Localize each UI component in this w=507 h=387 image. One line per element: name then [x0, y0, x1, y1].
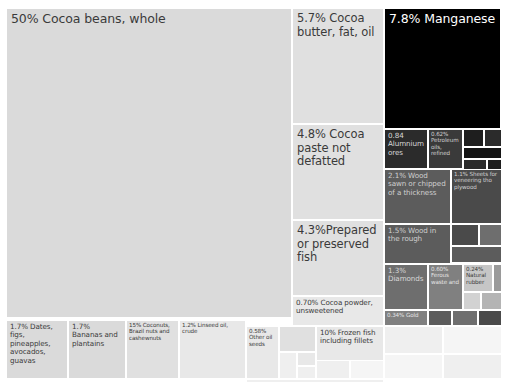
- treemap-cell-wood-in-the-rough[interactable]: 1.5% Wood in the rough: [384, 224, 451, 264]
- treemap-cell-label: 5.7% Cocoa butter, fat, oil: [293, 9, 383, 39]
- treemap-cell-right-mid-cell-b[interactable]: [479, 224, 502, 246]
- treemap-cell-label: 10% Frozen fish including fillets: [317, 327, 383, 346]
- treemap-cell-label: 15% Coconuts, Brazil nuts and cashewnuts: [127, 321, 178, 341]
- treemap-cell-bottom-right-cell-c[interactable]: [478, 310, 502, 326]
- treemap-cell-sheets-for-veneering[interactable]: 1.1% Sheets for veneering tho plywood: [451, 169, 502, 224]
- treemap-cell-cocoa-paste-not-defatted[interactable]: 4.8% Cocoa paste not defatted: [292, 124, 384, 220]
- treemap-cell-cocoa-butter-fat-oil[interactable]: 5.7% Cocoa butter, fat, oil: [292, 8, 384, 124]
- treemap-cell-natural-rubber[interactable]: 0.24% Natural rubber: [463, 264, 493, 292]
- treemap-cell-label: 0.58% Other oil seeds: [247, 327, 278, 347]
- treemap-cell-label: 1.1% Sheets for veneering tho plywood: [452, 170, 501, 190]
- treemap-cell-cocoa-powder-unsweetened[interactable]: 0.70% Cocoa powder, unsweetened: [292, 296, 384, 326]
- treemap-cell-small-dark-cell-a[interactable]: [463, 129, 484, 147]
- treemap-cell-right-low-cell-b[interactable]: [463, 292, 481, 310]
- treemap-cell-bottom-right-cell-a[interactable]: [428, 310, 452, 326]
- treemap-cell-linseed-oil-crude[interactable]: 1.2% Linseed oil, crude: [179, 320, 246, 379]
- treemap-cell-label: 1.2% Linseed oil, crude: [180, 321, 245, 335]
- treemap-cell-label: 1.7% Bananas and plantains: [69, 321, 125, 348]
- treemap-cell-aluminium-ores[interactable]: 0.84 Alumnium ores: [384, 129, 428, 169]
- treemap-cell-label: 1.5% Wood in the rough: [385, 225, 450, 244]
- treemap-cell-dates-figs-pineapples[interactable]: 1.7% Dates, figs, pineapples, avocados, …: [6, 320, 68, 379]
- treemap-cell-label: 0.34% Gold: [385, 311, 427, 318]
- treemap-cell-label: 50% Cocoa beans, whole: [7, 9, 291, 27]
- treemap-cell-bottom-filler-h[interactable]: [384, 326, 443, 354]
- treemap-cell-wood-sawn-or-chipped[interactable]: 2.1% Wood sawn or chipped of a thickness: [384, 169, 451, 224]
- treemap-cell-right-mid-cell-a[interactable]: [451, 224, 479, 246]
- treemap-cell-prepared-or-preserved-fish[interactable]: 4.3%Prepared or preserved fish: [292, 220, 384, 296]
- treemap-cell-bottom-filler-d[interactable]: [297, 366, 316, 379]
- treemap-cell-manganese[interactable]: 7.8% Manganese: [384, 8, 501, 129]
- treemap-cell-label: 7.8% Manganese: [385, 9, 500, 27]
- treemap-chart: 50% Cocoa beans, whole5.7% Cocoa butter,…: [0, 0, 507, 387]
- treemap-cell-bottom-filler-g[interactable]: [246, 379, 384, 383]
- treemap-cell-bottom-filler-c[interactable]: [297, 352, 316, 366]
- treemap-cell-label: 0.62% Petroleum oils, refined: [429, 130, 462, 156]
- treemap-cell-label: 0.84 Alumnium ores: [385, 130, 427, 157]
- treemap-cell-label: 0.24% Natural rubber: [464, 265, 492, 285]
- treemap-cell-cocoa-beans-whole[interactable]: 50% Cocoa beans, whole: [6, 8, 292, 318]
- treemap-cell-label: 1.3% Diamonds: [385, 265, 427, 284]
- treemap-cell-right-low-cell-a[interactable]: [493, 264, 502, 292]
- treemap-cell-bottom-filler-e[interactable]: [316, 360, 350, 379]
- treemap-cell-right-mid-cell-c[interactable]: [451, 246, 502, 263]
- treemap-cell-label: 2.1% Wood sawn or chipped of a thickness: [385, 170, 450, 197]
- treemap-cell-label: 0.70% Cocoa powder, unsweetened: [293, 297, 383, 316]
- treemap-cell-label: 4.8% Cocoa paste not defatted: [293, 125, 383, 169]
- treemap-cell-bottom-filler-j[interactable]: [384, 354, 443, 379]
- treemap-cell-petroleum-oils-refined[interactable]: 0.62% Petroleum oils, refined: [428, 129, 463, 169]
- treemap-cell-bottom-filler-i[interactable]: [443, 326, 502, 354]
- treemap-cell-label: 1.7% Dates, figs, pineapples, avocados, …: [7, 321, 67, 365]
- treemap-cell-coconuts-brazil-cashew[interactable]: 15% Coconuts, Brazil nuts and cashewnuts: [126, 320, 179, 379]
- treemap-cell-bottom-filler-a[interactable]: [279, 326, 316, 352]
- treemap-cell-bananas-and-plantains[interactable]: 1.7% Bananas and plantains: [68, 320, 126, 379]
- treemap-cell-bottom-filler-k[interactable]: [443, 354, 502, 379]
- treemap-cell-small-dark-cell-b[interactable]: [484, 129, 502, 147]
- treemap-cell-label: 4.3%Prepared or preserved fish: [293, 221, 383, 265]
- treemap-cell-other-oil-seeds[interactable]: 0.58% Other oil seeds: [246, 326, 279, 379]
- treemap-cell-gold[interactable]: 0.34% Gold: [384, 310, 428, 326]
- treemap-cell-right-low-cell-c[interactable]: [481, 292, 502, 310]
- treemap-cell-small-dark-cell-c[interactable]: [463, 147, 502, 159]
- treemap-cell-diamonds[interactable]: 1.3% Diamonds: [384, 264, 428, 310]
- treemap-cell-bottom-right-cell-b[interactable]: [452, 310, 478, 326]
- treemap-cell-bottom-filler-f[interactable]: [350, 360, 384, 379]
- treemap-cell-label: 0.60% Ferous waste and: [429, 265, 462, 285]
- treemap-cell-bottom-filler-b[interactable]: [279, 352, 297, 379]
- treemap-cell-ferous-waste-and[interactable]: 0.60% Ferous waste and: [428, 264, 463, 310]
